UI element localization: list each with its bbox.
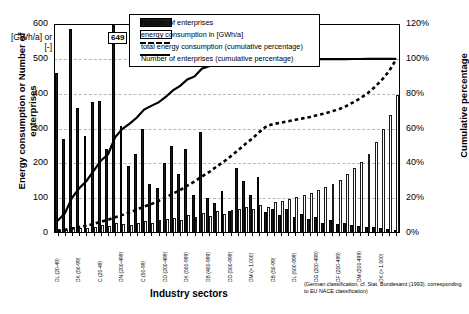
legend-label-enterprises: Number of enterprises [141,18,213,27]
y-tick-left-300: 300 [14,123,48,133]
x-tick-label: DD (200-499) [162,252,168,282]
x-tick-label: DD (500-999) [227,252,233,282]
y-tick-left-600: 600 [14,18,48,28]
legend-label-enterprises-cumulative: Number of enterprises (cumulative percen… [141,54,294,63]
x-tick-label: DB (400-999) [205,252,211,282]
y-tick-right-120: 120% [406,18,438,28]
y-tick-left-0: 0 [14,227,48,237]
x-tick-label: DB (50-99) [270,258,276,282]
legend: Number of enterprises energy consumption… [129,14,320,67]
x-tick-label: DM (200-499) [356,251,362,282]
y-tick-right-100: 100% [406,53,438,63]
x-tick-label: C (50-99) [140,261,146,282]
x-axis-title: Industry sectors [150,288,228,299]
y-tick-right-40: 40% [406,157,438,167]
y-tick-right-0: 0% [406,227,438,237]
y-tick-right-60: 60% [406,123,438,133]
x-tick-label: DG (200-499) [313,251,319,282]
x-tick-label: DL (500-999) [291,253,297,282]
x-tick-label: DN (200-499) [118,252,124,282]
classification-footnote: (German classification, cf. Stat. Bundes… [304,281,464,295]
x-tick-label: DK (50-99) [75,258,81,282]
y-tick-left-500: 500 [14,53,48,63]
y-axis-unit-label: [GWh/a] or [-] [8,32,52,52]
x-tick-label: C (20-49) [97,261,103,282]
legend-label-energy: energy consumption in [GWh/a] [141,30,243,39]
y-axis-right-title: Cumulative percentage [458,21,469,191]
x-tick-label: DM (> 1.000) [248,253,254,282]
y-tick-left-100: 100 [14,192,48,202]
y-tick-right-20: 20% [406,192,438,202]
line-energy-cumulative [58,59,397,231]
line-enterprises-cumulative [58,59,397,221]
x-tick-label: DK (500-999) [183,252,189,282]
x-axis-tick-labels: DL (20-49)DK (50-99)C (20-49)DN (200-499… [54,236,400,284]
y-tick-right-80: 80% [406,88,438,98]
x-tick-label: DL (20-49) [54,258,60,282]
y-tick-left-200: 200 [14,157,48,167]
x-tick-label: DF (200-499) [335,252,341,282]
y-tick-left-400: 400 [14,88,48,98]
value-callout-649: 649 [108,32,127,44]
x-tick-label: DK (> 1.000) [378,254,384,283]
legend-label-energy-cumulative: total energy consumption (cumulative per… [141,42,303,51]
